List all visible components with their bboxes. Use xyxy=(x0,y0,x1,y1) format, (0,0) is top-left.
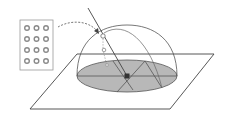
sky-dome-diagram xyxy=(0,0,231,123)
observer-point xyxy=(125,74,130,79)
sensor-grid xyxy=(20,20,53,70)
sun-marker-icon xyxy=(101,34,105,38)
projection-marker-icon xyxy=(102,48,106,52)
disc-marker-icon xyxy=(105,63,108,66)
dashed-arrow xyxy=(58,22,97,31)
